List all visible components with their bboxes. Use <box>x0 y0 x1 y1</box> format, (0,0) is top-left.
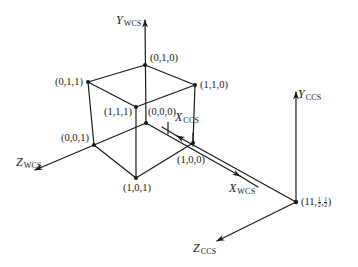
z-wcs-letter: Z <box>16 155 23 169</box>
diagram-lines <box>0 0 358 267</box>
camera-origin-prefix: (11, <box>301 196 317 207</box>
vertex-dot <box>134 105 138 109</box>
y-wcs-label: YWCS <box>116 14 142 26</box>
x-ccs-letter: X <box>175 110 182 124</box>
vertex-dot <box>92 143 96 147</box>
vertex-label-000: (0,0,0) <box>148 107 176 118</box>
x-wcs-subscript: WCS <box>237 187 255 196</box>
y-wcs-axis <box>145 20 146 123</box>
x-ccs-label: XCCS <box>175 111 199 123</box>
z-ccs-label: ZCCS <box>193 242 216 254</box>
cube-edge <box>94 123 146 145</box>
z-wcs-axis <box>35 145 94 170</box>
cube-edge <box>145 65 195 85</box>
y-wcs-subscript: WCS <box>124 19 142 28</box>
cube-edge <box>88 82 136 107</box>
y-ccs-label: YCCS <box>298 88 321 100</box>
y-wcs-letter: Y <box>116 13 123 27</box>
vertex-dot <box>134 176 138 180</box>
camera-origin-dot <box>294 200 298 204</box>
cube-edge <box>136 85 195 107</box>
vertex-label-101: (1,0,1) <box>123 183 151 194</box>
z-ccs-axis <box>217 202 296 241</box>
x-wcs-label: XWCS <box>229 182 255 194</box>
vertex-label-001: (0,0,1) <box>61 133 89 144</box>
z-wcs-label: ZWCS <box>16 156 42 168</box>
vertex-label-100: (1,0,0) <box>177 155 205 166</box>
coordinate-diagram: YWCS ZWCS XWCS XCCS YCCS ZCCS (0,1,0) (0… <box>0 0 358 267</box>
camera-origin-label: (11,12,12) <box>301 197 331 208</box>
cube-edge <box>88 65 145 82</box>
y-ccs-letter: Y <box>298 87 305 101</box>
vertex-label-011: (0,1,1) <box>55 77 83 88</box>
camera-origin-suffix: ) <box>328 196 332 207</box>
z-ccs-subscript: CCS <box>201 247 217 256</box>
x-ccs-axis-ext <box>162 127 177 136</box>
vertex-dot <box>144 121 148 125</box>
vertex-dot <box>193 83 197 87</box>
vertex-dot <box>191 141 195 145</box>
x-ccs-subscript: CCS <box>183 116 199 125</box>
y-ccs-subscript: CCS <box>306 93 322 102</box>
vertex-dot <box>86 80 90 84</box>
vertex-dot <box>143 63 147 67</box>
z-wcs-subscript: WCS <box>24 161 42 170</box>
z-ccs-letter: Z <box>193 241 200 255</box>
vertex-label-010: (0,1,0) <box>150 53 178 64</box>
x-wcs-letter: X <box>229 181 236 195</box>
vertex-label-110: (1,1,0) <box>200 80 228 91</box>
vertex-label-111: (1,1,1) <box>104 107 132 118</box>
cube-edge <box>94 145 136 178</box>
